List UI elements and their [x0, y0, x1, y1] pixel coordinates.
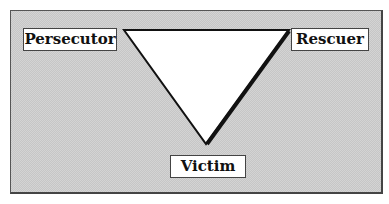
victim-label: Victim	[170, 155, 246, 178]
persecutor-label: Persecutor	[23, 28, 117, 51]
rescuer-label: Rescuer	[291, 28, 369, 51]
